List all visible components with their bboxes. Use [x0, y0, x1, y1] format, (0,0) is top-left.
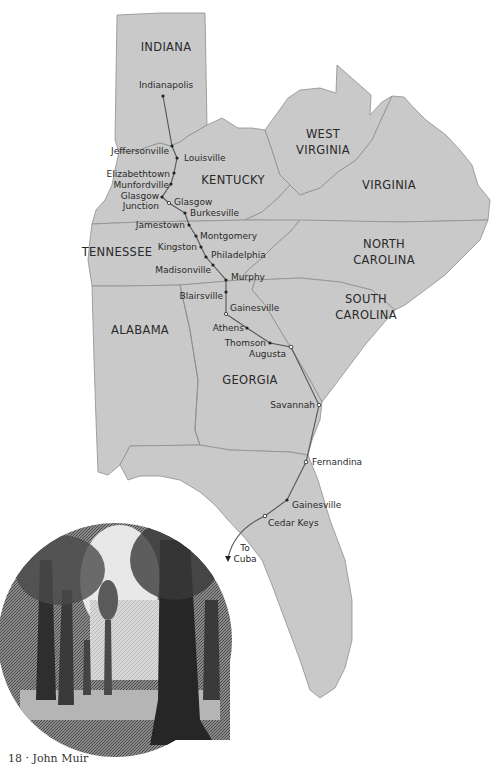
label-north-carolina-2: CAROLINA — [353, 253, 415, 267]
city-elizabethtown: Elizabethtown — [106, 169, 170, 179]
label-west-virginia-1: WEST — [306, 127, 341, 141]
city-montgomery: Montgomery — [200, 231, 258, 241]
to-cuba-2: Cuba — [233, 554, 256, 564]
city-glasgow-junction-2: Junction — [122, 201, 159, 211]
page-caption: 18 · John Muir — [8, 752, 88, 765]
city-blairsville: Blairsville — [180, 291, 224, 301]
forest-illustration — [0, 520, 240, 760]
city-jamestown: Jamestown — [135, 220, 185, 230]
to-cuba-1: To — [239, 543, 250, 553]
city-augusta: Augusta — [249, 349, 286, 359]
label-tennessee: TENNESSEE — [81, 245, 153, 259]
label-alabama: ALABAMA — [111, 323, 169, 337]
city-thomson: Thomson — [224, 338, 266, 348]
city-philadelphia: Philadelphia — [211, 250, 266, 260]
label-georgia: GEORGIA — [222, 373, 278, 387]
city-madisonville: Madisonville — [155, 265, 211, 275]
city-glasgow: Glasgow — [174, 197, 212, 207]
city-burkesville: Burkesville — [190, 208, 240, 218]
city-gainesville-fl: Gainesville — [292, 500, 342, 510]
city-louisville: Louisville — [184, 153, 226, 163]
city-athens: Athens — [213, 323, 244, 333]
label-north-carolina-1: NORTH — [363, 237, 405, 251]
city-jeffersonville: Jeffersonville — [110, 146, 169, 156]
city-munfordville: Munfordville — [114, 180, 170, 190]
city-murphy: Murphy — [231, 272, 266, 282]
city-savannah: Savannah — [270, 400, 315, 410]
city-gainesville-ga: Gainesville — [230, 303, 280, 313]
arrow-icon — [225, 556, 231, 562]
city-glasgow-junction-1: Glasgow — [121, 191, 159, 201]
city-fernandina: Fernandina — [312, 457, 362, 467]
label-kentucky: KENTUCKY — [201, 173, 265, 187]
label-virginia: VIRGINIA — [362, 178, 416, 192]
label-south-carolina-2: CAROLINA — [335, 308, 397, 322]
label-south-carolina-1: SOUTH — [345, 292, 387, 306]
label-indiana: INDIANA — [141, 40, 192, 54]
city-indianapolis: Indianapolis — [139, 80, 194, 90]
city-cedar-keys: Cedar Keys — [268, 518, 319, 528]
label-west-virginia-2: VIRGINIA — [296, 143, 350, 157]
city-kingston: Kingston — [158, 242, 197, 252]
